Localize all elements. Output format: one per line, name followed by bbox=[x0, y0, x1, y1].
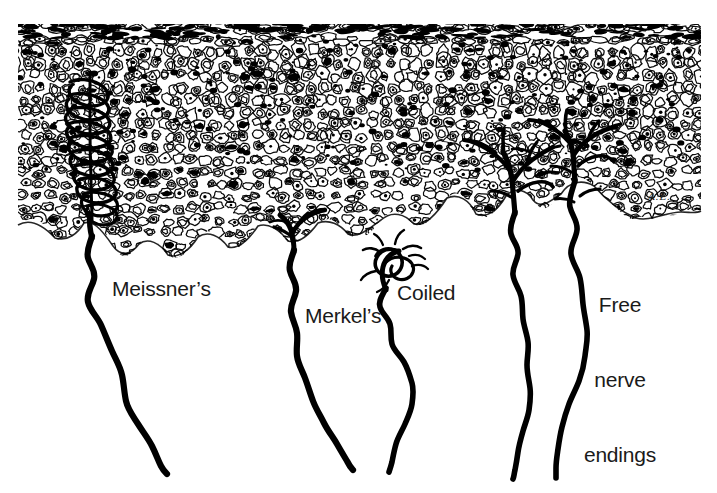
label-free-line-3: endings bbox=[568, 442, 672, 467]
skin-receptor-illustration: Meissner’s Merkel’s Coiled Free nerve en… bbox=[0, 0, 717, 493]
fiber-merkels bbox=[289, 250, 353, 470]
label-free-line-2: nerve bbox=[568, 367, 672, 392]
label-coiled: Coiled bbox=[397, 280, 455, 305]
label-merkels: Merkel’s bbox=[305, 303, 381, 328]
fiber-meissners bbox=[87, 236, 167, 474]
label-meissners: Meissner’s bbox=[112, 276, 211, 301]
fiber-free-left bbox=[510, 212, 530, 479]
label-free-nerve-endings: Free nerve endings bbox=[568, 242, 672, 493]
artist-signature: A.E. bbox=[648, 190, 671, 202]
label-free-line-1: Free bbox=[568, 292, 672, 317]
fiber-coiled bbox=[380, 288, 414, 472]
